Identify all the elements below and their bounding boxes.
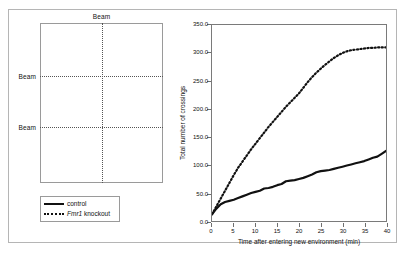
series-line-knockout	[212, 47, 386, 214]
x-tick-label: 10	[252, 228, 259, 234]
line-chart-panel: Total number of crossings 0.050.0100.015…	[180, 0, 407, 254]
x-tick-label: 5	[231, 228, 234, 234]
beam-label-top: Beam	[93, 13, 110, 20]
y-tick-label: 350.0	[193, 21, 208, 27]
y-tick-label: 250.0	[193, 78, 208, 84]
x-tick-mark	[233, 223, 234, 227]
x-tick-mark	[321, 223, 322, 227]
beam-line-horizontal-lower	[40, 127, 163, 128]
beam-line-horizontal-upper	[40, 76, 163, 77]
beam-label-left-upper: Beam	[19, 73, 36, 80]
y-tick-label: 300.0	[193, 49, 208, 55]
y-tick-label: 150.0	[193, 134, 208, 140]
x-tick-mark	[211, 223, 212, 227]
x-tick-mark	[387, 223, 388, 227]
x-tick-label: 15	[274, 228, 281, 234]
chart-series-svg	[212, 25, 386, 221]
y-tick-label: 100.0	[193, 162, 208, 168]
legend-label-knockout-rest: knockout	[82, 210, 110, 217]
apparatus-diagram-panel: Beam Beam Beam control Fmr1 knockout	[0, 0, 180, 254]
x-tick-label: 0	[209, 228, 212, 234]
figure-container: Beam Beam Beam control Fmr1 knockout Tot…	[0, 0, 407, 254]
x-tick-label: 25	[318, 228, 325, 234]
legend-label-knockout: Fmr1 knockout	[67, 210, 110, 218]
chart-x-axis-label: Time after entering new environment (min…	[238, 238, 360, 245]
x-tick-label: 30	[340, 228, 347, 234]
chart-legend: control Fmr1 knockout	[40, 196, 120, 222]
legend-item-control: control	[44, 199, 116, 209]
x-tick-mark	[365, 223, 366, 227]
y-tick-label: 50.0	[196, 191, 208, 197]
x-tick-label: 20	[296, 228, 303, 234]
chart-plot-area	[211, 24, 387, 222]
y-tick-label: 200.0	[193, 106, 208, 112]
beam-line-vertical	[102, 23, 103, 183]
beam-label-left-lower: Beam	[19, 124, 36, 131]
chart-y-axis-label: Total number of crossings	[179, 86, 186, 160]
legend-label-control: control	[67, 200, 87, 208]
legend-item-knockout: Fmr1 knockout	[44, 209, 116, 219]
x-tick-mark	[299, 223, 300, 227]
legend-line-dotted-icon	[44, 210, 64, 218]
legend-line-solid-icon	[44, 200, 64, 208]
y-tick-label: 0.0	[200, 219, 208, 225]
series-line-control	[212, 151, 386, 214]
x-tick-mark	[343, 223, 344, 227]
x-tick-label: 35	[362, 228, 369, 234]
x-tick-mark	[255, 223, 256, 227]
legend-label-knockout-gene: Fmr1	[67, 210, 82, 217]
x-tick-mark	[277, 223, 278, 227]
x-tick-label: 40	[384, 228, 391, 234]
